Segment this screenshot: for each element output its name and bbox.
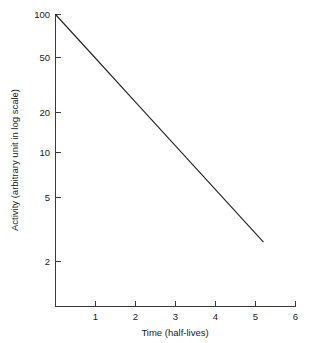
y-tick-label-100: 100 — [34, 9, 50, 20]
y-tick-label-5: 5 — [45, 192, 50, 203]
y-tick-label-2: 2 — [45, 256, 50, 267]
y-tick-group — [56, 15, 62, 262]
y-tick-label-50: 50 — [39, 52, 50, 63]
x-tick-label-5: 5 — [253, 311, 258, 322]
decay-curve — [56, 15, 264, 243]
y-tick-label-20: 20 — [39, 107, 50, 118]
chart-canvas: 100 50 20 10 5 2 1 2 3 4 5 6 Time (half-… — [0, 0, 316, 343]
x-tick-label-2: 2 — [133, 311, 138, 322]
y-tick-label-10: 10 — [39, 147, 50, 158]
x-axis-title: Time (half-lives) — [141, 327, 208, 338]
x-tick-label-6: 6 — [293, 311, 298, 322]
y-axis-title: Activity (arbitrary unit in log scale) — [9, 89, 20, 231]
x-tick-label-4: 4 — [213, 311, 218, 322]
x-tick-label-1: 1 — [93, 311, 98, 322]
x-tick-label-3: 3 — [173, 311, 178, 322]
decay-chart-figure: 100 50 20 10 5 2 1 2 3 4 5 6 Time (half-… — [0, 0, 316, 343]
x-tick-group — [96, 301, 296, 307]
